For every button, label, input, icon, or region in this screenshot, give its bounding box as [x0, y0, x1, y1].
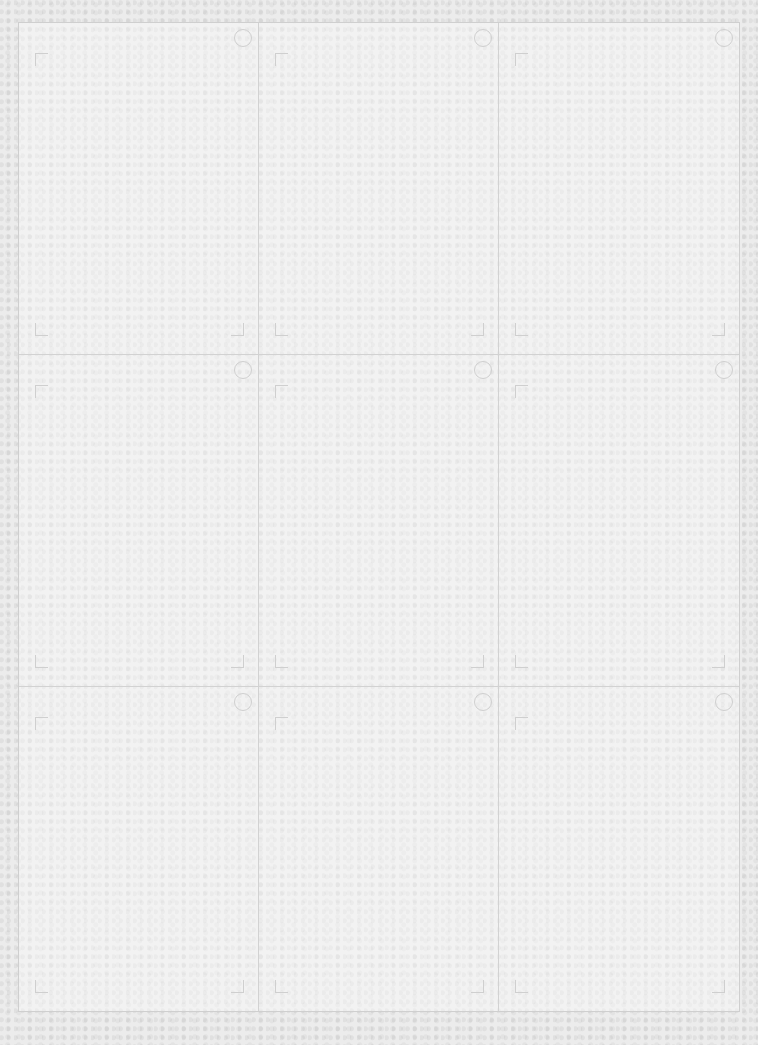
crop-mark-bottom-right-icon: [231, 655, 244, 668]
circle-icon: [234, 29, 252, 47]
card-cell: [259, 355, 499, 687]
card-cell: [499, 687, 739, 1011]
crop-mark-bottom-left-icon: [275, 323, 288, 336]
crop-mark-bottom-left-icon: [515, 655, 528, 668]
crop-mark-bottom-left-icon: [35, 655, 48, 668]
card-cell: [259, 687, 499, 1011]
card-cell: [259, 23, 499, 355]
crop-mark-bottom-right-icon: [712, 980, 725, 993]
card-cell: [499, 355, 739, 687]
circle-icon: [715, 361, 733, 379]
crop-mark-bottom-left-icon: [275, 980, 288, 993]
crop-mark-bottom-right-icon: [471, 323, 484, 336]
crop-mark-top-left-icon: [35, 53, 48, 66]
crop-mark-top-left-icon: [275, 717, 288, 730]
card-cell: [19, 687, 259, 1011]
crop-mark-top-left-icon: [515, 385, 528, 398]
crop-mark-bottom-right-icon: [712, 655, 725, 668]
crop-mark-top-left-icon: [275, 53, 288, 66]
crop-mark-bottom-right-icon: [231, 323, 244, 336]
crop-mark-bottom-left-icon: [35, 980, 48, 993]
circle-icon: [474, 693, 492, 711]
crop-mark-top-left-icon: [275, 385, 288, 398]
card-cell: [19, 355, 259, 687]
crop-mark-top-left-icon: [515, 717, 528, 730]
crop-mark-bottom-left-icon: [35, 323, 48, 336]
circle-icon: [715, 29, 733, 47]
circle-icon: [474, 361, 492, 379]
card-cell: [499, 23, 739, 355]
circle-icon: [234, 361, 252, 379]
crop-mark-top-left-icon: [35, 385, 48, 398]
crop-mark-bottom-left-icon: [515, 980, 528, 993]
circle-icon: [715, 693, 733, 711]
crop-mark-bottom-right-icon: [471, 655, 484, 668]
card-cell: [19, 23, 259, 355]
circle-icon: [474, 29, 492, 47]
crop-mark-bottom-right-icon: [471, 980, 484, 993]
circle-icon: [234, 693, 252, 711]
crop-mark-top-left-icon: [515, 53, 528, 66]
crop-mark-bottom-left-icon: [515, 323, 528, 336]
crop-mark-bottom-right-icon: [712, 323, 725, 336]
crop-mark-bottom-right-icon: [231, 980, 244, 993]
crop-mark-top-left-icon: [35, 717, 48, 730]
crop-mark-bottom-left-icon: [275, 655, 288, 668]
card-sheet: [18, 22, 740, 1012]
